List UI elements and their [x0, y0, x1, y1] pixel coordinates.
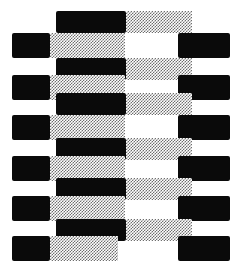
pattern-figure [0, 0, 235, 268]
pattern-row [0, 236, 235, 261]
bar-left-halftone [50, 33, 125, 58]
bar-left-halftone [50, 236, 118, 261]
bar-right-black [178, 33, 230, 58]
pattern-row [0, 33, 235, 58]
bar-left-halftone [50, 196, 125, 221]
pattern-row [0, 11, 235, 33]
bar-center-black [56, 93, 126, 115]
pattern-row [0, 115, 235, 140]
bar-left-black [12, 236, 50, 261]
bar-right-black [178, 196, 230, 221]
bar-right-black [178, 236, 230, 261]
pattern-row [0, 93, 235, 115]
bar-left-black [12, 33, 50, 58]
bar-right-halftone [126, 93, 192, 115]
bar-right-halftone [126, 11, 192, 33]
bar-left-halftone [50, 115, 125, 140]
bar-center-black [56, 11, 126, 33]
bar-left-black [12, 115, 50, 140]
bar-left-black [12, 196, 50, 221]
pattern-row [0, 196, 235, 221]
bar-right-black [178, 115, 230, 140]
